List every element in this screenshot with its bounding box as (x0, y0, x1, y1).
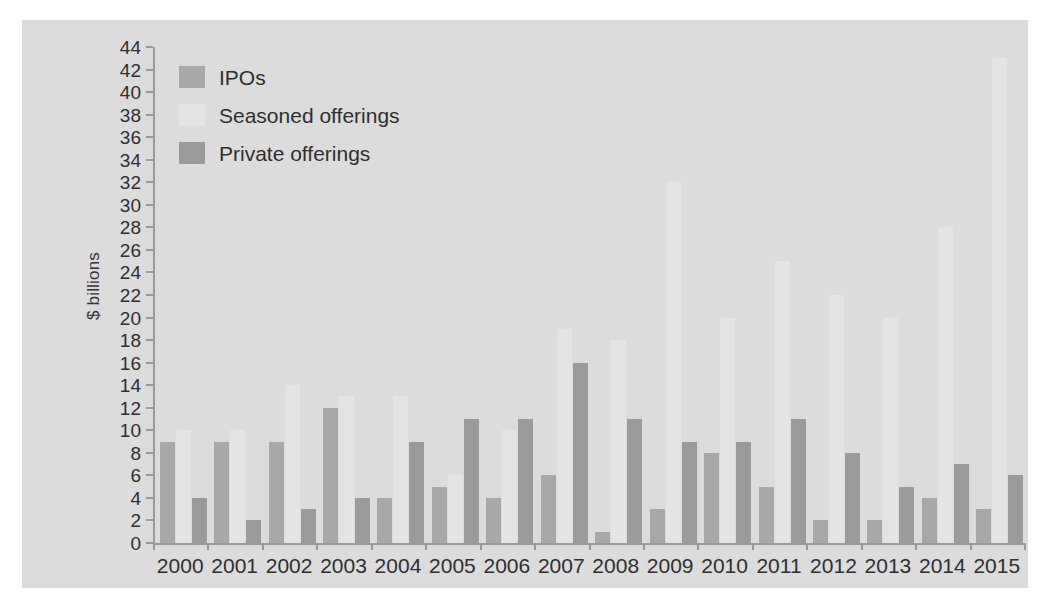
bar (867, 520, 882, 543)
y-tick-label: 4 (130, 488, 141, 507)
y-tick-label: 18 (120, 331, 141, 350)
bar (976, 509, 991, 543)
y-tick (146, 46, 153, 48)
bar (355, 498, 370, 543)
bar (954, 464, 969, 543)
bar (192, 498, 207, 543)
y-tick (146, 317, 153, 319)
bar (899, 487, 914, 543)
y-tick-label: 0 (130, 534, 141, 553)
bar (720, 318, 735, 543)
x-tick (589, 543, 591, 550)
x-tick-label: 2010 (701, 555, 748, 576)
x-tick-label: 2004 (375, 555, 422, 576)
x-tick-label: 2012 (810, 555, 857, 576)
bar (323, 408, 338, 543)
x-tick-label: 2003 (320, 555, 367, 576)
y-tick-label: 34 (120, 150, 141, 169)
y-tick (146, 69, 153, 71)
x-tick-label: 2015 (973, 555, 1020, 576)
bar (301, 509, 316, 543)
x-tick (480, 543, 482, 550)
bar (829, 295, 844, 543)
bar (759, 487, 774, 543)
y-tick (146, 429, 153, 431)
x-tick (316, 543, 318, 550)
bar (938, 227, 953, 543)
y-tick (146, 474, 153, 476)
y-tick-label: 28 (120, 218, 141, 237)
y-tick (146, 271, 153, 273)
legend-label: Private offerings (219, 143, 370, 164)
y-tick-label: 8 (130, 443, 141, 462)
y-tick-label: 24 (120, 263, 141, 282)
bar (813, 520, 828, 543)
y-tick-label: 2 (130, 511, 141, 530)
y-tick-label: 22 (120, 286, 141, 305)
x-tick (262, 543, 264, 550)
legend-swatch (179, 142, 205, 164)
y-tick-label: 32 (120, 173, 141, 192)
bar (377, 498, 392, 543)
x-tick (153, 543, 155, 550)
x-tick (697, 543, 699, 550)
bar (791, 419, 806, 543)
y-tick-label: 10 (120, 421, 141, 440)
x-tick-label: 2009 (647, 555, 694, 576)
bar (269, 442, 284, 543)
bar (246, 520, 261, 543)
bar (486, 498, 501, 543)
y-tick-label: 20 (120, 308, 141, 327)
y-tick-label: 44 (120, 38, 141, 57)
y-tick (146, 226, 153, 228)
bar (595, 532, 610, 543)
legend-label: IPOs (219, 67, 266, 88)
bar (736, 442, 751, 543)
bar (285, 385, 300, 543)
bar (573, 363, 588, 543)
bar (682, 442, 697, 543)
bar (502, 430, 517, 543)
bar (176, 430, 191, 543)
x-tick (425, 543, 427, 550)
bar (230, 430, 245, 543)
x-tick (752, 543, 754, 550)
bar (666, 182, 681, 543)
x-tick-label: 2005 (429, 555, 476, 576)
bar (992, 58, 1007, 543)
y-tick-label: 30 (120, 195, 141, 214)
y-tick-label: 16 (120, 353, 141, 372)
bar (704, 453, 719, 543)
legend-swatch (179, 66, 205, 88)
x-tick-label: 2002 (266, 555, 313, 576)
x-tick (1024, 543, 1026, 550)
y-tick-label: 36 (120, 128, 141, 147)
x-tick (806, 543, 808, 550)
x-tick (915, 543, 917, 550)
bar (160, 442, 175, 543)
y-tick (146, 159, 153, 161)
x-tick (643, 543, 645, 550)
bar (627, 419, 642, 543)
bar (557, 329, 572, 543)
legend-item: Seasoned offerings (179, 96, 400, 134)
y-tick (146, 452, 153, 454)
y-axis-label: $ billions (84, 206, 104, 366)
y-tick-label: 40 (120, 83, 141, 102)
y-tick (146, 136, 153, 138)
y-tick (146, 384, 153, 386)
x-tick-label: 2013 (865, 555, 912, 576)
y-tick (146, 294, 153, 296)
x-tick-label: 2008 (592, 555, 639, 576)
y-tick (146, 497, 153, 499)
chart-figure: $ billions 02468101214161820222426283032… (0, 0, 1049, 609)
y-tick (146, 519, 153, 521)
bar (650, 509, 665, 543)
y-tick (146, 339, 153, 341)
y-tick (146, 249, 153, 251)
y-axis-line (153, 47, 155, 543)
x-tick-label: 2001 (211, 555, 258, 576)
y-tick (146, 91, 153, 93)
y-tick (146, 542, 153, 544)
y-tick (146, 407, 153, 409)
